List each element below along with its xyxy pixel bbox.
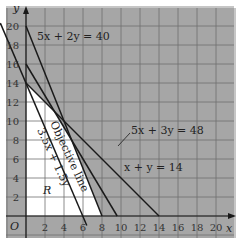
- svg-text:14: 14: [153, 222, 166, 233]
- svg-text:4: 4: [13, 173, 19, 184]
- region-label: R: [42, 184, 51, 197]
- svg-text:4: 4: [61, 222, 67, 233]
- svg-text:2: 2: [13, 192, 19, 203]
- lp-graph: 24681012141618202468101214161820 y x O 5…: [0, 0, 238, 238]
- svg-text:8: 8: [13, 135, 19, 146]
- svg-text:2: 2: [42, 222, 48, 233]
- svg-text:6: 6: [13, 154, 19, 165]
- svg-text:12: 12: [6, 97, 19, 108]
- svg-text:8: 8: [99, 222, 105, 233]
- label-5x-3y-48: 5x + 3y = 48: [131, 124, 204, 137]
- svg-text:10: 10: [6, 116, 19, 127]
- label-5x-2y-40: 5x + 2y = 40: [37, 30, 110, 43]
- graph-canvas: 24681012141618202468101214161820 y x O 5…: [0, 0, 238, 238]
- origin-label: O: [10, 220, 19, 233]
- label-x-y-14: x + y = 14: [124, 161, 183, 174]
- svg-text:20: 20: [6, 21, 19, 32]
- svg-text:14: 14: [6, 78, 19, 89]
- svg-text:18: 18: [6, 40, 19, 51]
- y-axis-label: y: [12, 2, 20, 15]
- svg-text:16: 16: [172, 222, 185, 233]
- svg-text:12: 12: [134, 222, 147, 233]
- svg-text:6: 6: [80, 222, 86, 233]
- svg-text:18: 18: [191, 222, 204, 233]
- svg-text:20: 20: [210, 222, 223, 233]
- svg-text:10: 10: [115, 222, 128, 233]
- svg-text:16: 16: [6, 59, 19, 70]
- x-axis-label: x: [226, 222, 233, 235]
